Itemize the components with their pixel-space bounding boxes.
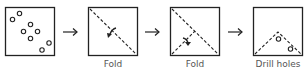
step-paper <box>6 8 55 56</box>
step-label-fold-2: Fold <box>165 59 225 69</box>
hole <box>17 11 21 15</box>
hole <box>40 48 44 52</box>
fold-arrow-icon <box>107 28 116 38</box>
hole <box>288 47 292 51</box>
arrow-right-icon <box>145 29 159 36</box>
step-label-drill: Drill holes <box>248 59 305 69</box>
hole <box>276 37 280 41</box>
arrow-right-icon <box>228 29 242 36</box>
hole <box>10 17 14 21</box>
hole <box>47 41 51 45</box>
step-drill-holes <box>254 8 303 56</box>
hole <box>35 29 39 33</box>
hole <box>28 36 32 40</box>
hole <box>28 22 32 26</box>
fold-line <box>90 9 136 54</box>
holes <box>10 11 51 52</box>
fold-line-second <box>172 31 195 54</box>
step-fold-2 <box>171 8 220 56</box>
step-fold-1 <box>89 8 138 56</box>
step-label-fold-1: Fold <box>83 59 143 69</box>
paper-square <box>6 8 55 56</box>
folded-triangle-outline <box>255 32 301 54</box>
arrow-right-icon <box>63 29 77 36</box>
hole <box>21 29 25 33</box>
